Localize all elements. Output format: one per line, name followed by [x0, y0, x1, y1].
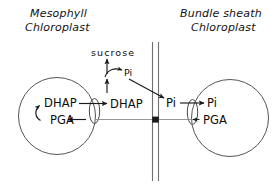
- cytosol-pi-label: Pi: [124, 67, 132, 78]
- mesophyll-title-line2: Chloroplast: [25, 21, 90, 34]
- sucrose-label: sucrose: [91, 47, 135, 58]
- mesophyll-pga-to-dhap-arrow: [36, 106, 41, 121]
- cell-wall-membrane-icon: [153, 42, 159, 181]
- diagram-svg: Mesophyll Chloroplast Bundle sheath Chlo…: [0, 0, 280, 189]
- bundle-sheath-pga-label: PGA: [203, 113, 227, 127]
- bundle-sheath-title-line2: Chloroplast: [191, 21, 256, 34]
- bundle-sheath-title-line1: Bundle sheath: [180, 7, 262, 20]
- bundle-sheath-pi-label: Pi: [207, 96, 217, 110]
- figure-canvas: Mesophyll Chloroplast Bundle sheath Chlo…: [0, 0, 280, 189]
- mesophyll-pga-label: PGA: [50, 113, 74, 127]
- membrane-pi-label: Pi: [166, 96, 176, 110]
- pathway-junction-node-icon: [152, 117, 159, 123]
- mesophyll-title-line1: Mesophyll: [30, 7, 87, 20]
- cytosol-dhap-label: DHAP: [110, 97, 143, 111]
- mesophyll-dhap-label: DHAP: [44, 96, 77, 110]
